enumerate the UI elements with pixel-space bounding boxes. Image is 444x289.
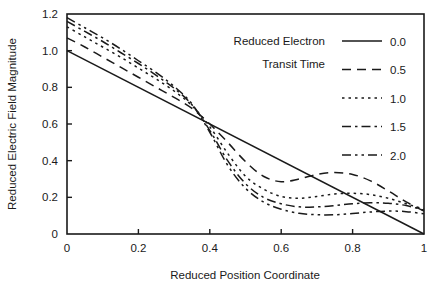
y-tick-label: 0.6 [42, 118, 58, 130]
line-chart: 00.20.40.60.81.01.2 00.20.40.60.81 Reduc… [0, 0, 444, 289]
legend-label-0-5: 0.5 [390, 64, 406, 76]
x-tick-label: 1 [421, 242, 427, 254]
x-tick-label: 0.6 [273, 242, 289, 254]
y-axis-title: Reduced Electric Field Magnitude [6, 38, 18, 210]
y-tick-label: 0.8 [42, 81, 58, 93]
legend-label-0-0: 0.0 [390, 36, 406, 48]
x-axis-title: Reduced Position Coordinate [170, 269, 320, 281]
chart-figure: 00.20.40.60.81.01.2 00.20.40.60.81 Reduc… [0, 0, 444, 289]
x-tick-label: 0.4 [202, 242, 219, 254]
legend-label-1-5: 1.5 [390, 121, 406, 133]
legend-title-line-2: Transit Time [262, 58, 325, 70]
x-tick-label: 0 [64, 242, 70, 254]
legend-title-line-1: Reduced Electron [234, 35, 325, 47]
y-tick-label: 0.2 [42, 191, 58, 203]
y-tick-label: 1.2 [42, 8, 58, 20]
y-tick-label: 1.0 [42, 45, 58, 57]
legend-label-2-0: 2.0 [390, 150, 406, 162]
x-tick-label: 0.2 [130, 242, 146, 254]
x-tick-label: 0.8 [345, 242, 361, 254]
y-tick-label: 0.4 [42, 155, 59, 167]
y-tick-label: 0 [52, 228, 58, 240]
legend-label-1-0: 1.0 [390, 93, 406, 105]
